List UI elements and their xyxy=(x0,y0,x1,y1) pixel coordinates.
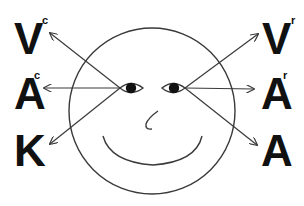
eye-accessing-cues-diagram: V c A c K V r A r A xyxy=(0,0,304,206)
arrow-to-visual-remembered xyxy=(185,34,258,88)
left-pupil xyxy=(126,83,136,93)
label-auditory-digital: A xyxy=(261,126,293,175)
label-visual-constructed: V c xyxy=(14,14,48,63)
label-auditory-constructed: A c xyxy=(14,69,46,118)
arrow-to-auditory-remembered xyxy=(185,88,254,89)
label-letter: V xyxy=(14,14,44,63)
label-superscript: c xyxy=(42,14,48,26)
label-superscript: c xyxy=(34,69,40,81)
face-outline xyxy=(69,28,235,194)
right-pupil xyxy=(169,83,179,93)
label-letter: A xyxy=(261,69,293,118)
label-letter: A xyxy=(261,126,293,175)
label-kinesthetic: K xyxy=(14,126,46,175)
smile xyxy=(103,136,202,165)
nose xyxy=(146,111,158,129)
label-letter: A xyxy=(14,69,46,118)
label-auditory-remembered: A r xyxy=(261,69,293,118)
arrow-to-kinesthetic xyxy=(50,88,120,144)
right-eye xyxy=(162,83,185,93)
arrow-to-auditory-digital xyxy=(185,88,257,145)
left-eye xyxy=(120,83,143,93)
label-superscript: r xyxy=(291,14,296,26)
label-letter: V xyxy=(262,14,292,63)
arrow-to-visual-constructed xyxy=(50,33,120,88)
label-superscript: r xyxy=(283,69,288,81)
label-visual-remembered: V r xyxy=(262,14,296,63)
label-letter: K xyxy=(14,126,46,175)
